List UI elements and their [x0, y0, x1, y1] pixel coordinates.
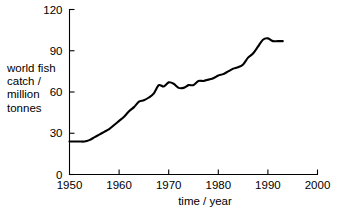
y-axis-tick-labels: 0306090120	[43, 4, 62, 181]
y-tick-label-120: 120	[43, 4, 62, 16]
line-chart: 0306090120 195019601970198019902000 time…	[0, 0, 343, 216]
x-tick-label-1950: 1950	[57, 179, 83, 191]
y-axis-ticks	[70, 10, 75, 175]
x-tick-label-1980: 1980	[206, 179, 232, 191]
chart-container: world fish catch / million tonnes 030609…	[0, 0, 343, 216]
fish-catch-series-line	[70, 38, 283, 141]
x-tick-label-1970: 1970	[156, 179, 182, 191]
y-tick-label-30: 30	[50, 127, 63, 139]
x-axis-tick-labels: 195019601970198019902000	[57, 179, 331, 191]
x-tick-label-2000: 2000	[305, 179, 331, 191]
y-tick-label-90: 90	[50, 45, 63, 57]
x-axis-ticks	[119, 170, 317, 175]
x-tick-label-1990: 1990	[255, 179, 281, 191]
x-axis-title: time / year	[178, 195, 232, 207]
y-tick-label-60: 60	[50, 86, 63, 98]
x-tick-label-1960: 1960	[106, 179, 132, 191]
